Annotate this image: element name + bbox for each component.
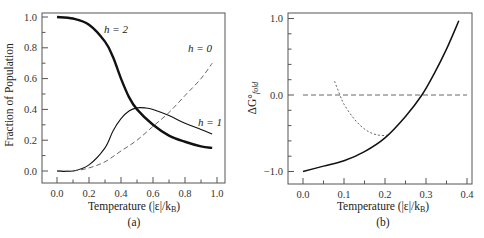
chart-a-series [57, 17, 212, 171]
annotation-h1: h = 1 [198, 116, 222, 128]
series-h0 [57, 63, 212, 171]
y-tick-label: 1.0 [24, 12, 37, 23]
y-tick-label: 0.6 [24, 73, 37, 84]
chart-b-ticks: 0.00.10.20.30.4−1.00.01.0 [264, 13, 474, 200]
y-tick-label: −1.0 [264, 166, 283, 177]
chart-a: 0.00.20.40.60.81.00.00.20.40.60.81.0 h =… [3, 12, 225, 230]
series-low-T-approximation [335, 81, 387, 135]
y-tick-label: 0.0 [270, 90, 283, 101]
y-tick-label: 0.8 [24, 42, 37, 53]
x-tick-label: 0.0 [296, 189, 309, 200]
series-h2 [57, 17, 212, 148]
chart-b-series [303, 21, 467, 172]
chart-a-frame [42, 13, 225, 183]
annotation-h0: h = 0 [188, 42, 212, 54]
chart-a-xlabel: Temperature (|ε|/kB) [88, 200, 180, 214]
x-tick-label: 0.4 [114, 188, 128, 199]
x-tick-label: 0.1 [337, 189, 350, 200]
x-tick-label: 0.2 [82, 188, 95, 199]
chart-b-xlabel: Temperature (|ε|/kB) [337, 200, 429, 214]
y-tick-label: 0.0 [24, 166, 37, 177]
chart-b: 0.00.10.20.30.4−1.00.01.0 ΔG°fold Temper… [246, 13, 474, 229]
x-tick-label: 0.8 [178, 188, 191, 199]
y-tick-label: 0.2 [24, 135, 37, 146]
chart-b-panel-label: (b) [376, 216, 390, 229]
series-ΔG-fold [303, 21, 459, 172]
x-tick-label: 0.4 [460, 189, 474, 200]
x-tick-label: 1.0 [210, 188, 223, 199]
chart-a-ticks: 0.00.20.40.60.81.00.00.20.40.60.81.0 [24, 12, 224, 200]
y-tick-label: 1.0 [270, 13, 283, 24]
x-tick-label: 0.3 [419, 189, 432, 200]
x-tick-label: 0.2 [378, 189, 391, 200]
annotation-h2: h = 2 [104, 23, 128, 35]
chart-a-panel-label: (a) [128, 216, 141, 229]
chart-a-ylabel: Fraction of Population [3, 43, 16, 147]
x-tick-label: 0.0 [50, 188, 63, 199]
figure: 0.00.20.40.60.81.00.00.20.40.60.81.0 h =… [0, 0, 484, 238]
y-tick-label: 0.4 [24, 104, 38, 115]
series-h1 [57, 108, 212, 172]
chart-b-ylabel: ΔG°fold [246, 81, 260, 115]
chart-b-frame [288, 13, 472, 184]
x-tick-label: 0.6 [146, 188, 159, 199]
